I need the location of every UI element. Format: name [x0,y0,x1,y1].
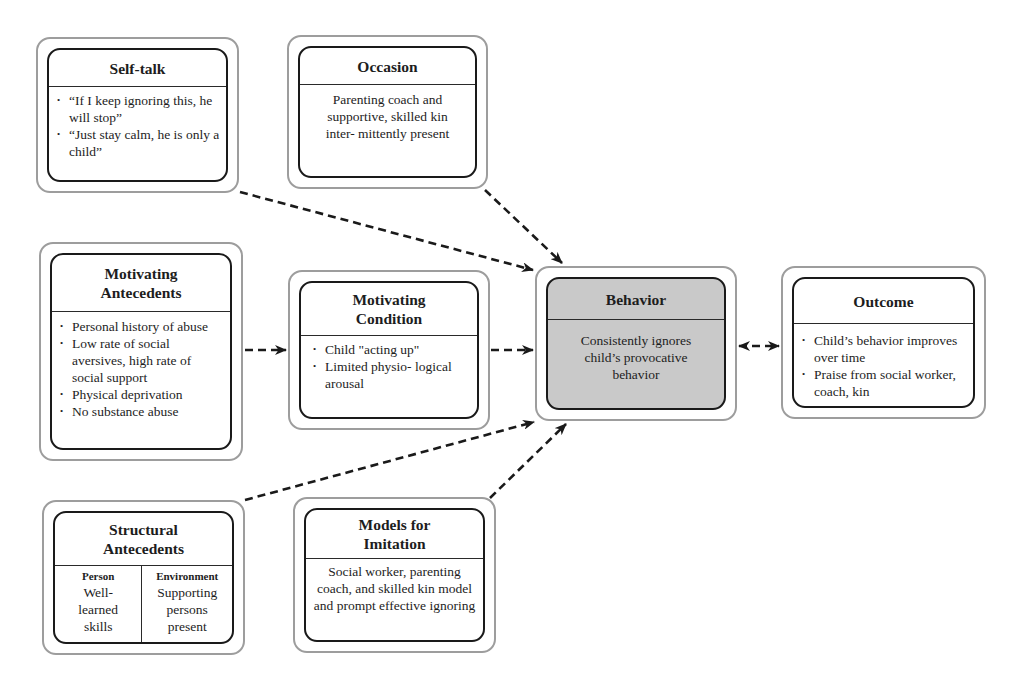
list-item: Praise from social worker, coach, kin [800,366,967,400]
structural-split: Person Well- learned skills Environment … [55,566,232,642]
environment-text: Supporting persons present [142,584,232,635]
node-title: Outcome [794,279,973,324]
outcome-title: Outcome [853,292,913,311]
node-body: “If I keep ignoring this, he will stop” … [49,87,226,180]
person-column: Person Well- learned skills [55,566,141,642]
node-behavior: Behavior Consistently ignores child’s pr… [535,266,737,421]
environment-label: Environment [142,569,232,584]
node-models-for-imitation-card: Models for Imitation Social worker, pare… [304,508,485,642]
behavior-text: Consistently ignores child’s provocative… [548,320,724,408]
occasion-text: Parenting coach and supportive, skilled … [300,85,475,176]
node-motivating-antecedents: Motivating Antecedents Personal history … [39,242,243,461]
arrow-structural-to-behavior [245,422,534,500]
self-talk-list: “If I keep ignoring this, he will stop” … [55,92,220,160]
node-structural-antecedents-card: Structural Antecedents Person Well- lear… [53,511,234,644]
models-text: Social worker, parenting coach, and skil… [306,559,483,640]
outcome-list: Child’s behavior improves over time Prai… [800,332,967,400]
list-item: Physical deprivation [58,386,224,403]
node-title: Models for Imitation [306,510,483,559]
motivating-antecedents-list: Personal history of abuse Low rate of so… [58,318,224,420]
list-item: No substance abuse [58,403,224,420]
node-title: Structural Antecedents [55,513,232,566]
node-motivating-antecedents-card: Motivating Antecedents Personal history … [50,253,232,450]
node-body: Personal history of abuse Low rate of so… [52,312,230,448]
occasion-title: Occasion [357,57,417,76]
node-title: Motivating Antecedents [52,255,230,312]
node-outcome-card: Outcome Child’s behavior improves over t… [792,277,975,408]
node-title: Self-talk [49,50,226,87]
title-line-1: Motivating [104,264,177,283]
title-line-1: Structural [109,520,178,539]
list-item: Child’s behavior improves over time [800,332,967,366]
list-item: “Just stay calm, he is only a child” [55,126,220,160]
node-models-for-imitation: Models for Imitation Social worker, pare… [293,497,496,653]
title-line-1: Models for [359,515,431,534]
arrow-self-talk-to-behavior [240,192,533,270]
title-line-2: Antecedents [101,283,182,302]
node-body: Child "acting up" Limited physio- logica… [301,336,477,417]
title-line-2: Imitation [364,534,426,553]
node-title: Motivating Condition [301,283,477,336]
motivating-condition-list: Child "acting up" Limited physio- logica… [311,341,471,392]
title-line-1: Motivating [352,290,425,309]
list-item: Limited physio- logical arousal [311,358,471,392]
node-body: Child’s behavior improves over time Prai… [794,324,973,406]
list-item: Personal history of abuse [58,318,224,335]
node-title: Occasion [300,48,475,85]
node-self-talk-card: Self-talk “If I keep ignoring this, he w… [47,48,228,182]
arrow-occasion-to-behavior [485,190,562,263]
list-item: Child "acting up" [311,341,471,358]
node-behavior-card: Behavior Consistently ignores child’s pr… [546,277,726,410]
node-occasion: Occasion Parenting coach and supportive,… [287,35,488,189]
node-motivating-condition: Motivating Condition Child "acting up" L… [288,270,490,430]
node-outcome: Outcome Child’s behavior improves over t… [781,266,986,419]
list-item: Low rate of social aversives, high rate … [58,335,224,386]
node-structural-antecedents: Structural Antecedents Person Well- lear… [42,500,245,655]
list-item: “If I keep ignoring this, he will stop” [55,92,220,126]
arrow-models-to-behavior [490,424,566,498]
person-text: Well- learned skills [63,584,133,635]
title-line-2: Condition [356,309,422,328]
behavior-title: Behavior [606,290,666,309]
self-talk-title: Self-talk [110,59,166,78]
title-line-2: Antecedents [103,539,184,558]
person-label: Person [63,569,133,584]
node-motivating-condition-card: Motivating Condition Child "acting up" L… [299,281,479,419]
node-occasion-card: Occasion Parenting coach and supportive,… [298,46,477,178]
node-title: Behavior [548,279,724,320]
environment-column: Environment Supporting persons present [141,566,232,642]
node-self-talk: Self-talk “If I keep ignoring this, he w… [36,37,239,193]
